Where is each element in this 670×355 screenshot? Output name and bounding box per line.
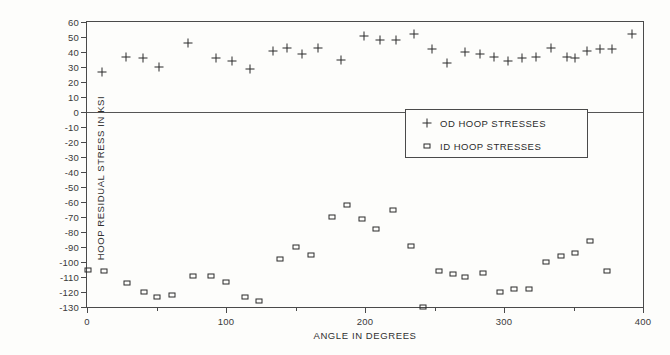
y-tick <box>81 247 87 248</box>
y-tick-label: 60 <box>68 17 79 28</box>
y-tick <box>81 172 87 173</box>
data-point-od <box>155 63 164 72</box>
x-tick <box>87 307 88 313</box>
data-point-id <box>277 257 284 262</box>
y-tick <box>81 67 87 68</box>
plot-area: -130-120-110-100-90-80-70-60-50-40-30-20… <box>86 21 644 308</box>
data-point-id <box>542 260 549 265</box>
x-tick-label: 400 <box>635 316 651 327</box>
x-tick-label: 300 <box>496 316 512 327</box>
data-point-od <box>121 52 130 61</box>
data-point-id <box>389 207 396 212</box>
data-point-id <box>140 290 147 295</box>
data-point-id <box>153 294 160 299</box>
data-point-od <box>595 45 604 54</box>
y-tick <box>81 232 87 233</box>
plus-marker-icon <box>414 116 440 130</box>
y-tick-label: -100 <box>59 257 79 268</box>
y-tick <box>81 52 87 53</box>
y-tick-label: -20 <box>65 137 79 148</box>
data-point-id <box>449 272 456 277</box>
data-point-od <box>376 36 385 45</box>
y-tick-label: -80 <box>65 227 79 238</box>
data-point-od <box>490 52 499 61</box>
data-point-od <box>583 46 592 55</box>
x-tick <box>643 307 644 313</box>
data-point-id <box>207 273 214 278</box>
square-marker-icon <box>414 139 440 153</box>
x-tick <box>504 307 505 313</box>
y-tick <box>81 202 87 203</box>
data-point-od <box>298 49 307 58</box>
y-tick-label: -90 <box>65 242 79 253</box>
data-point-od <box>427 45 436 54</box>
y-tick <box>81 187 87 188</box>
y-tick-label: -40 <box>65 167 79 178</box>
y-tick <box>81 97 87 98</box>
y-tick-label: -60 <box>65 197 79 208</box>
data-point-id <box>435 269 442 274</box>
data-point-od <box>608 45 617 54</box>
legend-entry-od: OD HOOP STRESSES <box>406 111 587 135</box>
data-point-id <box>359 216 366 221</box>
y-tick-label: 20 <box>68 77 79 88</box>
y-tick-label: -10 <box>65 122 79 133</box>
legend-entry-id: ID HOOP STRESSES <box>406 134 587 158</box>
data-point-od <box>283 43 292 52</box>
data-point-id <box>603 269 610 274</box>
data-point-id <box>343 203 350 208</box>
y-tick <box>81 37 87 38</box>
data-point-id <box>85 267 92 272</box>
data-point-od <box>245 64 254 73</box>
y-tick-label: -120 <box>59 287 79 298</box>
data-point-od <box>98 67 107 76</box>
x-tick-label: 0 <box>84 316 89 327</box>
data-point-od <box>531 52 540 61</box>
data-point-id <box>307 252 314 257</box>
data-point-od <box>184 39 193 48</box>
y-tick <box>81 157 87 158</box>
x-tick-minor <box>296 307 297 311</box>
data-point-id <box>223 279 230 284</box>
data-point-od <box>562 52 571 61</box>
x-tick-minor <box>157 307 158 311</box>
y-tick-label: 10 <box>68 92 79 103</box>
data-point-id <box>420 305 427 310</box>
data-point-od <box>212 54 221 63</box>
data-point-od <box>627 30 636 39</box>
data-point-id <box>496 290 503 295</box>
y-tick-label: 40 <box>68 47 79 58</box>
data-point-od <box>313 43 322 52</box>
data-point-id <box>168 293 175 298</box>
data-point-od <box>518 54 527 63</box>
data-point-id <box>480 270 487 275</box>
data-point-id <box>557 254 564 259</box>
data-point-id <box>100 269 107 274</box>
data-point-id <box>571 251 578 256</box>
data-point-id <box>256 299 263 304</box>
y-tick-label: 0 <box>74 107 79 118</box>
legend-label-od: OD HOOP STRESSES <box>440 118 546 129</box>
data-point-od <box>504 57 513 66</box>
data-point-od <box>443 58 452 67</box>
data-point-id <box>242 294 249 299</box>
y-tick-label: -110 <box>60 272 79 283</box>
y-tick <box>81 142 87 143</box>
y-tick <box>81 262 87 263</box>
data-point-od <box>409 30 418 39</box>
data-point-od <box>547 43 556 52</box>
data-point-id <box>124 281 131 286</box>
data-point-id <box>292 245 299 250</box>
data-point-id <box>587 239 594 244</box>
y-tick-label: 50 <box>68 32 79 43</box>
data-point-od <box>570 54 579 63</box>
y-tick-label: 30 <box>68 62 79 73</box>
data-point-id <box>462 275 469 280</box>
y-tick <box>81 127 87 128</box>
x-axis-title: ANGLE IN DEGREES <box>86 330 644 341</box>
legend: OD HOOP STRESSES ID HOOP STRESSES <box>405 109 588 158</box>
data-point-od <box>227 57 236 66</box>
y-tick-label: -50 <box>65 182 79 193</box>
data-point-id <box>189 273 196 278</box>
data-point-od <box>359 31 368 40</box>
